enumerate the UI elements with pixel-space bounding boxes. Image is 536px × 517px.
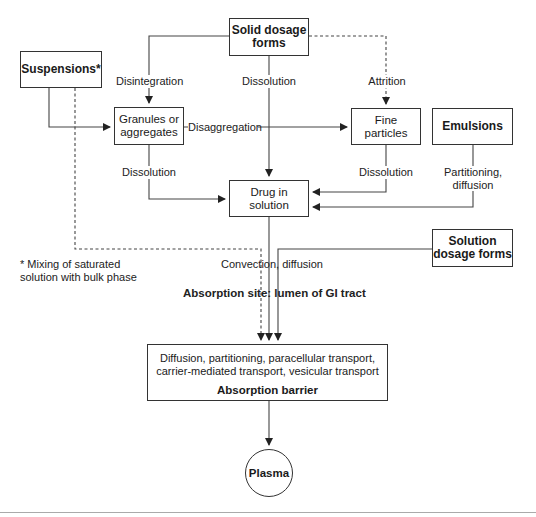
bottom-rule bbox=[0, 512, 536, 513]
label-convection-diffusion: Convection, diffusion bbox=[220, 258, 324, 271]
label-attrition: Attrition bbox=[368, 75, 406, 88]
label-disintegration: Disintegration bbox=[116, 75, 182, 88]
node-plasma: Plasma bbox=[245, 449, 293, 497]
node-granules-or-aggregates: Granules or aggregates bbox=[114, 107, 184, 145]
barrier-title: Absorption barrier bbox=[148, 384, 387, 397]
node-solution-dosage-forms: Solution dosage forms bbox=[432, 229, 513, 267]
node-suspensions: Suspensions* bbox=[20, 51, 102, 88]
node-drug-in-solution: Drug in solution bbox=[229, 180, 309, 217]
label-dissolution-granules: Dissolution bbox=[122, 166, 176, 179]
barrier-mechanisms: Diffusion, partitioning, paracellular tr… bbox=[148, 352, 387, 378]
node-emulsions: Emulsions bbox=[432, 108, 513, 145]
node-absorption-barrier: Diffusion, partitioning, paracellular tr… bbox=[147, 344, 388, 401]
label-disaggregation: Disaggregation bbox=[188, 121, 258, 134]
node-fine-particles: Fine particles bbox=[351, 108, 421, 145]
label-partitioning-diffusion: Partitioning, diffusion bbox=[444, 166, 502, 191]
label-dissolution-fine: Dissolution bbox=[359, 166, 413, 179]
node-solid-dosage-forms: Solid dosage forms bbox=[229, 18, 309, 56]
label-dissolution-solid: Dissolution bbox=[242, 75, 296, 88]
footnote: * Mixing of saturated solution with bulk… bbox=[20, 258, 160, 283]
region-label-absorption-site: Absorption site: lumen of GI tract bbox=[183, 287, 363, 300]
